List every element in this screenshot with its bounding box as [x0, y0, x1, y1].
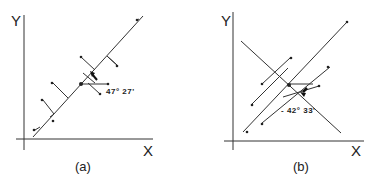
panel-a-x-label: X [143, 143, 153, 158]
panel-a-y-label: Y [11, 13, 21, 28]
panel-b-main-line [243, 22, 347, 132]
panel-b-caption: (b) [293, 160, 309, 173]
panel-b-x-label: X [351, 143, 361, 158]
panel-a-caption: (a) [75, 160, 91, 173]
panel-b-angle-label: - 42° 33' [281, 107, 316, 115]
panel-a-angle-arrow [90, 71, 97, 80]
panel-a-angle-label: 47° 27' [106, 88, 135, 96]
panel-b-falling-line [241, 41, 341, 133]
diagram-canvas [0, 0, 373, 185]
panel-a-fit-line [33, 16, 143, 137]
panel-b-y-label: Y [221, 13, 231, 28]
